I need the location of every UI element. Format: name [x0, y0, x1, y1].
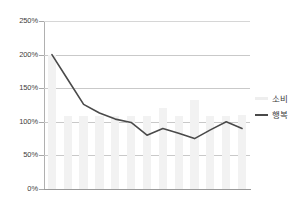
y-axis-tick-label: 250% [4, 17, 38, 25]
legend-label-consumption: 소비 [272, 94, 288, 104]
legend-item-happiness[interactable]: 행복 [255, 108, 306, 121]
x-axis-line [44, 189, 251, 190]
y-axis-labels: 250%200%150%100%50%0% [0, 0, 38, 214]
line-series-happiness [44, 21, 250, 189]
plot-area [44, 21, 250, 189]
chart-container: 250%200%150%100%50%0% 소비 행복 [0, 0, 306, 214]
y-axis-tick-label: 0% [4, 185, 38, 193]
y-axis-tick-label: 50% [4, 151, 38, 159]
chart-legend: 소비 행복 [255, 92, 306, 124]
y-axis-tick-label: 200% [4, 51, 38, 59]
y-axis-tick-label: 150% [4, 84, 38, 92]
legend-line-swatch-icon [255, 110, 268, 119]
legend-bar-swatch-icon [255, 94, 268, 103]
y-axis-tick-label: 100% [4, 118, 38, 126]
legend-label-happiness: 행복 [272, 110, 288, 120]
legend-item-consumption[interactable]: 소비 [255, 92, 306, 105]
